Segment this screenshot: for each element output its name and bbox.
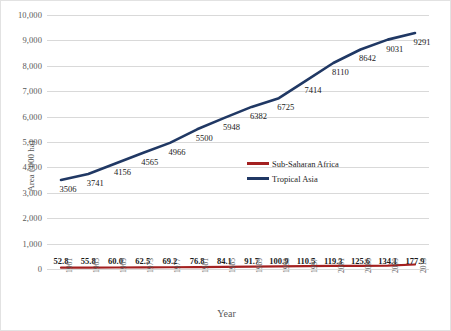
data-label: 6382 [250,111,267,121]
data-label: 3741 [87,178,104,188]
y-axis-tick-label: 1,000 [22,239,42,249]
data-label: 3506 [60,184,77,194]
legend-label: Tropical Asia [272,174,318,184]
data-label: 4966 [168,147,185,157]
data-label: 5948 [223,122,240,132]
x-axis-tick-label: 1981 [201,258,210,273]
y-axis-tick-label: 10,000 [18,10,42,20]
y-axis-tick-label: 0 [38,264,42,274]
legend-swatch-icon [247,162,269,165]
legend-item-sub-saharan-africa[interactable]: Sub-Saharan Africa [247,156,339,171]
y-axis-tick-label: 4,000 [22,162,42,172]
data-label: 7414 [305,85,322,95]
y-axis-tick-label: 8,000 [22,61,42,71]
y-axis-tick-label: 9,000 [22,35,42,45]
y-axis-tick-label: 6,000 [22,112,42,122]
legend-item-tropical-asia[interactable]: Tropical Asia [247,171,339,186]
x-axis-tick-label: 1985 [228,258,237,273]
data-label: 8110 [332,67,349,77]
data-label: 9031 [386,44,403,54]
data-label: 4156 [114,167,131,177]
data-label: 4565 [141,157,158,167]
legend-label: Sub-Saharan Africa [272,159,339,169]
x-axis-tick-label: 2013 [419,258,428,273]
plot-area: 01,0002,0003,0004,0005,0006,0007,0008,00… [47,15,429,269]
y-axis-tick-label: 7,000 [22,86,42,96]
x-axis-tick-label: 2001 [337,258,346,273]
data-label: 8642 [359,53,376,63]
x-axis-tick-label: 1965 [92,258,101,273]
data-label: 6725 [277,102,294,112]
y-axis-tick-label: 3,000 [22,188,42,198]
data-label: 9291 [414,37,431,47]
x-axis-tick-label: 1977 [173,258,182,273]
x-axis-tick-label: 1969 [119,258,128,273]
y-axis-tick-label: 5,000 [22,137,42,147]
x-axis-title: Year [1,308,451,319]
x-axis-tick-label: 1997 [310,258,319,273]
x-axis-tick-label: 2005 [364,258,373,273]
legend: Sub-Saharan Africa Tropical Asia [247,156,339,186]
x-axis-tick-label: 1989 [255,258,264,273]
line-chart: Area ('000 ha) 01,0002,0003,0004,0005,00… [0,0,451,331]
x-axis-tick-label: 1973 [146,258,155,273]
x-axis-tick-label: 1961 [65,258,74,273]
x-axis-tick-label: 2009 [391,258,400,273]
data-label: 5500 [196,133,213,143]
y-axis-tick-label: 2,000 [22,213,42,223]
legend-swatch-icon [247,177,269,180]
x-axis-tick-label: 1993 [282,258,291,273]
